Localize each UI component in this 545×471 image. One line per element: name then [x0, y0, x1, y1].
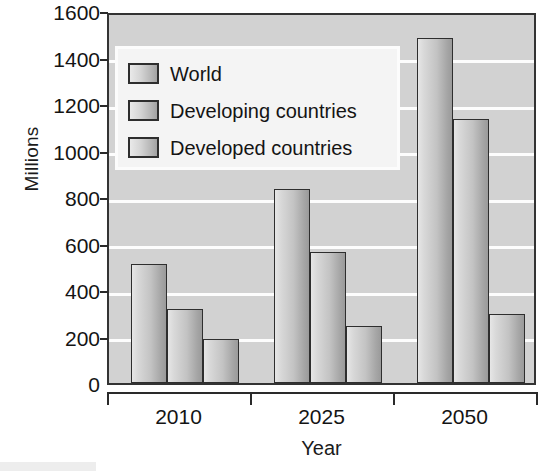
legend-swatch-icon: [128, 137, 159, 158]
y-axis-tick-label: 1400: [34, 49, 100, 70]
y-axis-tickmark: [100, 291, 108, 293]
y-axis-tickmark: [100, 12, 108, 14]
y-axis-tickmark: [100, 338, 108, 340]
x-axis-tick-label: 2050: [405, 405, 525, 429]
legend-label: Developing countries: [170, 101, 357, 121]
bar: [203, 339, 239, 383]
legend-swatch-icon: [128, 100, 159, 121]
legend-item-developed-countries: Developed countries: [128, 129, 389, 166]
bar: [417, 38, 453, 383]
bar: [310, 252, 346, 383]
bar-chart: Millions 02004006008001000120014001600 W…: [0, 0, 545, 471]
plot-area: World Developing countries Developed cou…: [107, 13, 536, 385]
legend-item-developing-countries: Developing countries: [128, 92, 389, 129]
y-axis-tick-label: 1600: [34, 2, 100, 23]
x-axis-tickmark: [107, 392, 109, 405]
y-axis-tickmark: [100, 59, 108, 61]
x-axis-tick-label: 2010: [119, 405, 239, 429]
legend-swatch-icon: [128, 63, 159, 84]
x-axis-title: Year: [107, 437, 536, 460]
y-axis-tickmark: [100, 245, 108, 247]
legend-label: Developed countries: [170, 138, 352, 158]
x-axis-line: [107, 392, 536, 394]
y-axis-tickmark: [100, 198, 108, 200]
x-axis-tickmark: [536, 392, 538, 405]
x-axis-tickmark: [250, 392, 252, 405]
legend-label: World: [170, 64, 222, 84]
chart-legend: World Developing countries Developed cou…: [115, 46, 400, 170]
bar: [346, 326, 382, 383]
y-axis-tick-label: 800: [34, 188, 100, 209]
y-axis-tickmark: [100, 105, 108, 107]
bar: [453, 119, 489, 383]
y-axis-tickmark: [100, 152, 108, 154]
y-axis-tick-labels: 02004006008001000120014001600: [22, 0, 100, 400]
y-axis-tick-label: 0: [34, 374, 100, 395]
legend-item-world: World: [128, 55, 389, 92]
y-axis-tick-label: 1000: [34, 142, 100, 163]
y-axis-tick-label: 200: [34, 328, 100, 349]
bar: [489, 314, 525, 383]
x-axis-tick-label: 2025: [262, 405, 382, 429]
y-axis-tick-label: 400: [34, 281, 100, 302]
x-axis-tickmark: [393, 392, 395, 405]
bar: [274, 189, 310, 383]
y-axis-tick-label: 1200: [34, 95, 100, 116]
bar: [131, 264, 167, 383]
y-axis-tick-label: 600: [34, 235, 100, 256]
bar: [167, 309, 203, 383]
scan-artifact: [0, 462, 96, 471]
